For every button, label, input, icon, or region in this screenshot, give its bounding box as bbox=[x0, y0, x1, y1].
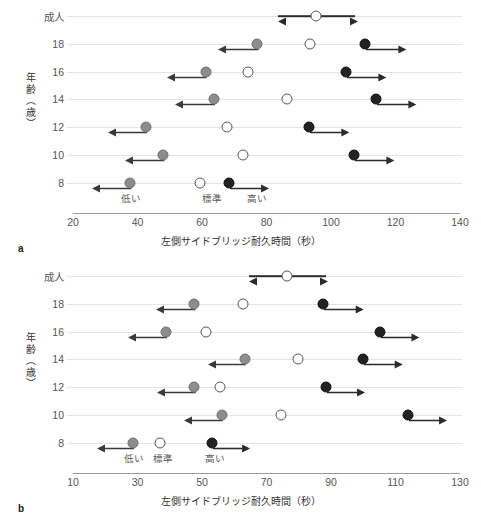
x-tick-label: 120 bbox=[387, 216, 405, 228]
normal-marker bbox=[311, 11, 322, 22]
y-tick-label: 18 bbox=[52, 298, 64, 310]
low-marker bbox=[200, 66, 211, 77]
x-tick-label: 130 bbox=[451, 476, 469, 488]
low-marker bbox=[188, 298, 199, 309]
y-tick-label: 10 bbox=[52, 409, 64, 421]
zone-label: 低い bbox=[124, 451, 144, 465]
high-marker bbox=[359, 38, 370, 49]
figure-container: 年齢（歳） 成人18161412108低い標準高い 20406080100120… bbox=[0, 0, 481, 522]
x-tick-label: 100 bbox=[322, 216, 340, 228]
gridline bbox=[67, 72, 462, 73]
zone-label: 標準 bbox=[153, 451, 173, 465]
y-tick-label: 8 bbox=[58, 437, 64, 449]
x-axis-label-b: 左側サイドブリッジ耐久時間（秒） bbox=[0, 493, 481, 508]
y-axis-label-a: 年齢（歳） bbox=[22, 72, 37, 130]
high-marker bbox=[370, 94, 381, 105]
x-tick-label: 10 bbox=[67, 476, 79, 488]
y-tick-label: 8 bbox=[58, 177, 64, 189]
high-marker bbox=[348, 150, 359, 161]
low-marker bbox=[128, 437, 139, 448]
gridline bbox=[67, 359, 462, 360]
gridline bbox=[67, 304, 462, 305]
y-tick-label: 16 bbox=[52, 326, 64, 338]
x-tick-label: 60 bbox=[196, 216, 208, 228]
normal-marker bbox=[242, 66, 253, 77]
y-tick-label: 成人 bbox=[44, 269, 64, 284]
high-marker bbox=[317, 298, 328, 309]
y-tick-label: 14 bbox=[52, 93, 64, 105]
normal-marker bbox=[221, 122, 232, 133]
low-marker bbox=[160, 326, 171, 337]
y-tick-label: 12 bbox=[52, 381, 64, 393]
x-tick-label: 70 bbox=[261, 476, 273, 488]
panel-letter-b: b bbox=[18, 503, 24, 514]
y-tick-label: 14 bbox=[52, 353, 64, 365]
x-tick-label: 110 bbox=[387, 476, 404, 488]
x-tick-label: 140 bbox=[451, 216, 469, 228]
y-tick-label: 16 bbox=[52, 66, 64, 78]
gridline bbox=[67, 16, 462, 17]
x-tick-label: 30 bbox=[132, 476, 144, 488]
high-marker bbox=[320, 382, 331, 393]
y-tick-label: 成人 bbox=[44, 9, 64, 24]
panel-letter-a: a bbox=[18, 243, 24, 254]
plot-area-a: 成人18161412108低い標準高い bbox=[73, 8, 460, 198]
gridline bbox=[67, 387, 462, 388]
high-marker bbox=[224, 177, 235, 188]
normal-marker bbox=[200, 326, 211, 337]
x-tick-label: 50 bbox=[196, 476, 208, 488]
low-marker bbox=[125, 177, 136, 188]
low-marker bbox=[189, 382, 200, 393]
high-marker bbox=[207, 437, 218, 448]
chart-panel-b: 年齢（歳） 成人18161412108低い標準高い 10305070901101… bbox=[0, 260, 481, 522]
x-tick-label: 80 bbox=[261, 216, 273, 228]
high-marker bbox=[341, 66, 352, 77]
normal-marker bbox=[237, 298, 248, 309]
y-tick-label: 18 bbox=[52, 38, 64, 50]
x-tick-label: 20 bbox=[67, 216, 79, 228]
y-tick-label: 12 bbox=[52, 121, 64, 133]
zone-label: 標準 bbox=[202, 191, 222, 205]
high-marker bbox=[403, 410, 414, 421]
y-tick-label: 10 bbox=[52, 149, 64, 161]
y-axis-label-b: 年齢（歳） bbox=[22, 332, 37, 390]
high-marker bbox=[357, 354, 368, 365]
x-tick-label: 40 bbox=[132, 216, 144, 228]
normal-marker bbox=[237, 150, 248, 161]
plot-area-b: 成人18161412108低い標準高い bbox=[73, 268, 460, 458]
low-marker bbox=[208, 94, 219, 105]
normal-marker bbox=[154, 437, 165, 448]
zone-label: 低い bbox=[121, 191, 141, 205]
normal-marker bbox=[215, 382, 226, 393]
normal-marker bbox=[282, 271, 293, 282]
zone-label: 高い bbox=[247, 191, 267, 205]
x-axis-line-b bbox=[73, 473, 460, 474]
x-axis-label-a: 左側サイドブリッジ耐久時間（秒） bbox=[0, 233, 481, 248]
normal-marker bbox=[195, 177, 206, 188]
low-marker bbox=[140, 122, 151, 133]
normal-marker bbox=[275, 410, 286, 421]
low-marker bbox=[252, 38, 263, 49]
normal-marker bbox=[281, 94, 292, 105]
x-axis-line-a bbox=[73, 213, 460, 214]
high-marker bbox=[375, 326, 386, 337]
chart-panel-a: 年齢（歳） 成人18161412108低い標準高い 20406080100120… bbox=[0, 0, 481, 260]
low-marker bbox=[239, 354, 250, 365]
low-marker bbox=[216, 410, 227, 421]
zone-label: 高い bbox=[205, 451, 225, 465]
normal-marker bbox=[304, 38, 315, 49]
high-marker bbox=[304, 122, 315, 133]
normal-marker bbox=[292, 354, 303, 365]
low-marker bbox=[158, 150, 169, 161]
x-tick-label: 90 bbox=[325, 476, 337, 488]
